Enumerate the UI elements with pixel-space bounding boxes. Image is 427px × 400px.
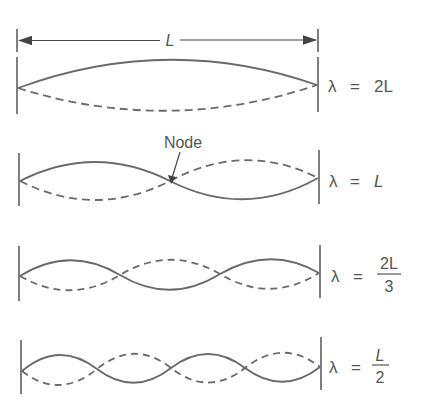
- solid-wave: [20, 162, 318, 199]
- equals-sign: =: [350, 77, 360, 96]
- dashed-wave: [20, 260, 319, 291]
- dimension-label: L: [166, 32, 175, 49]
- lambda-symbol: λ: [328, 77, 337, 96]
- fraction-numerator: L: [376, 347, 385, 364]
- wavelength-value: 2L: [374, 77, 393, 96]
- equals-sign: =: [353, 267, 363, 286]
- equals-sign: =: [350, 172, 360, 191]
- solid-wave: [22, 354, 320, 383]
- lambda-symbol: λ: [329, 172, 338, 191]
- standing-waves-diagram: L λ = 2L Node λ = L λ = 2L 3: [0, 0, 427, 400]
- length-dimension: L: [17, 29, 318, 52]
- fraction-denominator: 3: [385, 278, 394, 295]
- lambda-symbol: λ: [329, 358, 338, 377]
- solid-wave: [20, 259, 319, 290]
- equals-sign: =: [351, 358, 361, 377]
- mode-1: λ = 2L: [17, 57, 393, 114]
- lambda-symbol: λ: [331, 267, 340, 286]
- node-label: Node: [164, 134, 202, 151]
- mode-3: λ = 2L 3: [19, 245, 401, 301]
- solid-wave: [18, 60, 317, 88]
- fraction-numerator: 2L: [380, 255, 398, 272]
- dashed-wave: [18, 85, 317, 111]
- mode-2: Node λ = L: [19, 134, 383, 206]
- mode-4: λ = L 2: [21, 337, 389, 394]
- wavelength-value: L: [374, 172, 383, 191]
- node-pointer-arrow: [172, 152, 180, 178]
- fraction-denominator: 2: [376, 369, 385, 386]
